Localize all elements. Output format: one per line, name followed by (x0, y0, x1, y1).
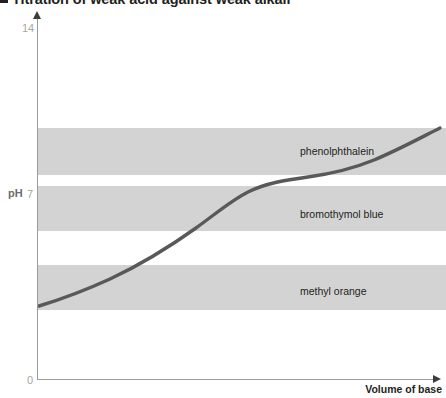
y-axis-tick-mid: 7 (27, 188, 33, 200)
indicator-band-bromothymol-blue (38, 186, 446, 231)
titration-chart-screenshot: Titration of weak acid against weak alka… (0, 0, 446, 398)
band-label-phenolphthalein: phenolphthalein (300, 145, 374, 157)
band-label-methyl-orange: methyl orange (300, 285, 367, 297)
y-axis-line (37, 18, 38, 380)
plot-area: phenolphthalein bromothymol blue methyl … (0, 0, 446, 398)
y-axis-tick-top: 14 (22, 22, 34, 34)
indicator-band-phenolphthalein (38, 128, 446, 175)
x-axis-title: Volume of base (365, 383, 442, 395)
y-axis-tick-bottom: 0 (27, 374, 33, 386)
arrow-up-icon (33, 11, 41, 19)
indicator-band-methyl-orange (38, 265, 446, 310)
arrow-right-icon (433, 375, 441, 383)
y-axis-title: pH (8, 187, 23, 199)
x-axis-line (37, 379, 435, 380)
band-label-bromothymol-blue: bromothymol blue (300, 208, 383, 220)
